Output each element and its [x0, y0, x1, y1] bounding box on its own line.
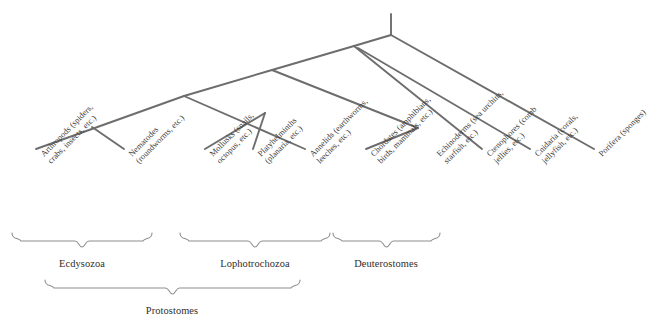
phylogenetic-tree-figure: Arthropods (spiders,crabs, insects, etc.… — [0, 0, 660, 323]
group-label-ecdysozoa: Ecdysozoa — [0, 258, 172, 269]
brace-ecdysozoa — [12, 233, 152, 247]
brace-protostomes — [45, 280, 300, 294]
brace-lophotrochozoa — [180, 233, 330, 247]
group-label-protostomes: Protostomes — [82, 305, 262, 316]
brace-deuterostomes — [333, 233, 440, 247]
group-braces-layer — [0, 0, 660, 323]
group-label-deuterostomes: Deuterostomes — [296, 258, 476, 269]
